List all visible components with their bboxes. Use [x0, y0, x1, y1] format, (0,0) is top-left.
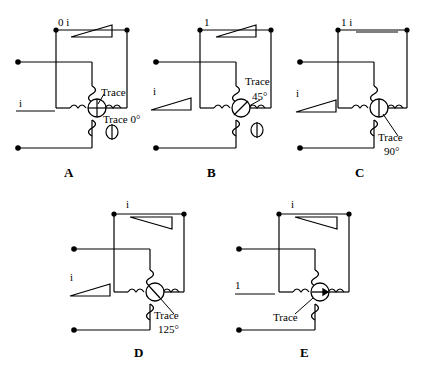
panel-a-left-label: i: [19, 98, 22, 109]
panel-e-trace-label: Trace: [273, 312, 298, 323]
panel-a: 0 i i Trace Trace 0°: [8, 8, 143, 163]
panel-c-trace-label: Trace: [378, 132, 403, 143]
coil-left: [128, 289, 144, 292]
meter-gauge-secondary: [251, 122, 263, 138]
coil-left: [214, 105, 230, 108]
panel-a-trace-label: Trace: [101, 87, 126, 98]
coil-left: [70, 105, 86, 108]
panel-letter-c: C: [355, 165, 364, 181]
phasor-top: [130, 217, 172, 229]
panel-d-trace-angle-label: 125°: [158, 324, 179, 335]
panel-d-trace-label: Trace: [154, 310, 179, 321]
panel-c: 1 i i Trace 90°: [294, 8, 422, 163]
panel-letter-d: D: [134, 345, 143, 361]
coil-left: [293, 289, 309, 292]
phasor-top: [71, 25, 112, 37]
panel-a-top-label: 0 i: [58, 17, 69, 28]
panel-b-trace-angle-label: 45°: [252, 91, 267, 102]
coil-left: [352, 105, 368, 108]
panel-b-top-label: 1: [204, 17, 210, 28]
panel-d-top-label: i: [126, 199, 129, 210]
panel-letter-e: E: [300, 345, 309, 361]
panel-a-trace-angle-label: Trace 0°: [103, 114, 140, 125]
phasor-left: [151, 98, 191, 110]
panel-d-left-label: i: [70, 272, 73, 283]
panel-d: i i Trace 125°: [68, 192, 218, 342]
panel-b-left-label: i: [153, 86, 156, 97]
panel-c-top-label: 1 i: [341, 17, 352, 28]
panel-b-trace-label: Trace: [245, 76, 270, 87]
panel-e-circuit: [233, 192, 383, 342]
meter-gauge-secondary: [106, 124, 118, 140]
panel-e-top-label: i: [291, 199, 294, 210]
panel-letter-a: A: [64, 165, 73, 181]
phasor-top: [295, 217, 337, 229]
phasor-top: [216, 25, 256, 37]
panel-d-circuit: [68, 192, 218, 342]
panel-e-left-label: 1: [235, 280, 241, 291]
panel-c-left-label: i: [296, 88, 299, 99]
panel-e: i 1 Trace: [233, 192, 383, 342]
panel-letter-b: B: [207, 165, 216, 181]
panel-c-trace-angle-label: 90°: [384, 146, 399, 157]
phasor-left: [296, 100, 336, 112]
panel-b: 1 i Trace 45°: [148, 8, 288, 163]
phasor-left: [70, 284, 110, 296]
